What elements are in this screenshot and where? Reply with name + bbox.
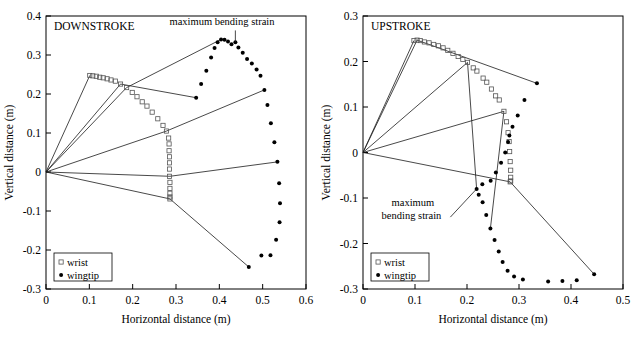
data-point-wingtip (592, 272, 596, 276)
data-point-wingtip (497, 249, 501, 253)
panel-upstroke: 00.10.20.30.40.50.30.20.10-0.1-0.2-0.3Ho… (317, 0, 635, 339)
y-tick-label: 0.1 (27, 127, 42, 139)
data-point-wingtip (247, 265, 251, 269)
data-point-wrist (509, 168, 513, 172)
data-point-wingtip (277, 181, 281, 185)
x-tick-label: 0.4 (564, 294, 579, 306)
y-tick-label: -0.3 (23, 283, 41, 295)
data-point-wingtip (262, 88, 266, 92)
series-wrist (412, 38, 513, 184)
data-point-wrist (508, 160, 512, 164)
legend-marker-wingtip (376, 273, 380, 277)
x-tick-label: 0.3 (169, 294, 184, 306)
wing-segment (46, 39, 221, 172)
annotation-label: maximum (392, 197, 435, 208)
x-tick-label: 0.3 (512, 294, 527, 306)
series-wingtip (475, 81, 597, 283)
legend-label-wrist: wrist (67, 257, 88, 268)
data-point-wingtip (506, 269, 510, 273)
data-point-wrist (130, 90, 134, 94)
data-point-wingtip (494, 171, 498, 175)
data-point-wingtip (229, 42, 233, 46)
plot-downstroke: 00.10.20.30.40.50.60.40.30.20.10-0.1-0.2… (0, 0, 318, 339)
y-tick-label: 0.2 (27, 88, 42, 100)
data-point-wrist (485, 80, 489, 84)
data-point-wingtip (511, 125, 515, 129)
data-point-wingtip (535, 81, 539, 85)
data-point-wingtip (499, 161, 503, 165)
data-point-wingtip (507, 133, 511, 137)
data-point-wrist (168, 186, 172, 190)
wing-segment (363, 62, 468, 152)
data-point-wingtip (223, 38, 227, 42)
data-point-wrist (167, 142, 171, 146)
data-point-wrist (167, 155, 171, 159)
data-point-wingtip (477, 193, 481, 197)
x-tick-label: 0.1 (82, 294, 97, 306)
y-tick-label: -0.1 (340, 192, 358, 204)
data-point-wingtip (516, 113, 520, 117)
x-tick-label: 0.5 (616, 294, 631, 306)
figure-container: 00.10.20.30.40.50.60.40.30.20.10-0.1-0.2… (0, 0, 635, 339)
panel-title: UPSTROKE (371, 20, 430, 32)
data-point-wingtip (199, 82, 203, 86)
data-point-wingtip (245, 57, 249, 61)
data-point-wingtip (194, 96, 198, 100)
x-axis-title: Horizontal distance (m) (121, 313, 230, 326)
data-point-wrist (504, 120, 508, 124)
data-point-wingtip (488, 226, 492, 230)
x-tick-label: 0 (360, 294, 366, 306)
legend-label-wrist: wrist (384, 257, 405, 268)
annotation-label: bending strain (382, 210, 443, 221)
x-axis-title: Horizontal distance (m) (438, 313, 547, 326)
data-point-wrist (489, 87, 493, 91)
data-point-wingtip (241, 51, 245, 55)
data-point-wingtip (480, 182, 484, 186)
data-point-wrist (167, 136, 171, 140)
data-point-wrist (494, 94, 498, 98)
annotation-label: maximum bending strain (170, 16, 276, 27)
y-tick-label: -0.2 (23, 244, 41, 256)
data-point-wrist (167, 167, 171, 171)
data-point-wingtip (272, 140, 276, 144)
plot-upstroke: 00.10.20.30.40.50.30.20.10-0.1-0.2-0.3Ho… (317, 0, 635, 339)
y-tick-label: 0.4 (27, 10, 42, 22)
data-point-wrist (497, 98, 501, 102)
wing-segment (46, 90, 264, 172)
data-point-wrist (113, 79, 117, 83)
wing-segment (468, 62, 477, 188)
series-wingtip (194, 37, 282, 269)
plot-frame (46, 16, 306, 289)
y-tick-label: 0 (35, 166, 41, 178)
data-point-wingtip (275, 160, 279, 164)
y-axis-title: Vertical distance (m) (320, 104, 333, 200)
y-tick-label: 0 (352, 147, 358, 159)
data-point-wingtip (209, 56, 213, 60)
data-point-wrist (145, 104, 149, 108)
legend-marker-wingtip (59, 273, 63, 277)
data-point-wingtip (265, 103, 269, 107)
x-tick-label: 0.2 (460, 294, 475, 306)
data-point-wingtip (278, 220, 282, 224)
data-point-wingtip (250, 62, 254, 66)
data-point-wrist (135, 95, 139, 99)
data-point-wingtip (236, 46, 240, 50)
data-point-wingtip (512, 274, 516, 278)
data-point-wingtip (503, 151, 507, 155)
data-point-wrist (150, 110, 154, 114)
data-point-wingtip (219, 37, 223, 41)
data-point-wingtip (560, 279, 564, 283)
plot-frame (363, 16, 623, 289)
data-point-wrist (140, 100, 144, 104)
data-point-wingtip (481, 200, 485, 204)
y-axis-title: Vertical distance (m) (3, 104, 16, 200)
wing-segment (46, 162, 279, 177)
x-tick-label: 0.5 (255, 294, 270, 306)
y-tick-label: 0.1 (344, 101, 359, 113)
data-point-wrist (508, 149, 512, 153)
panel-title: DOWNSTROKE (54, 20, 135, 32)
data-point-wingtip (269, 121, 273, 125)
data-point-wingtip (575, 278, 579, 282)
data-point-wingtip (501, 260, 505, 264)
data-point-wingtip (278, 201, 282, 205)
